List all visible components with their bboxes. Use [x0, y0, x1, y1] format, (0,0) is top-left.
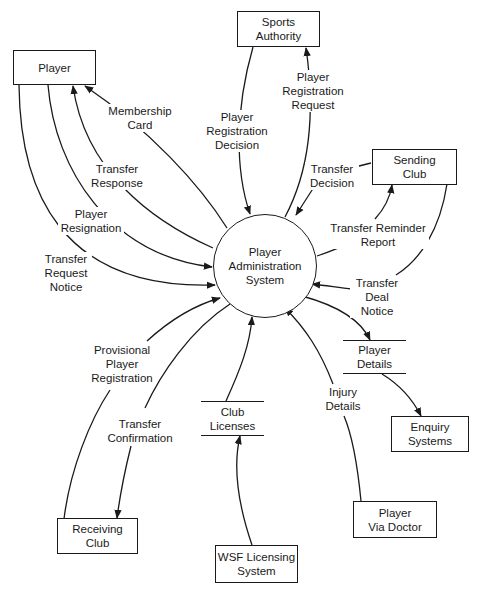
flow-to-enquiry-systems: [382, 374, 421, 416]
entity-enquiry-systems[interactable]: Enquiry Systems: [391, 416, 469, 452]
store-label: Player Details: [357, 343, 392, 371]
entity-label: Player Via Doctor: [368, 506, 421, 534]
entity-label: Sending Club: [393, 153, 435, 181]
entity-sports-authority[interactable]: Sports Authority: [237, 11, 320, 47]
entity-player[interactable]: Player: [13, 50, 96, 85]
process-player-administration-system[interactable]: Player Administration System: [213, 214, 317, 318]
label-transfer-decision: Transfer Decision: [305, 162, 359, 190]
label-membership-card: Membership Card: [104, 104, 176, 132]
store-label: Club Licenses: [210, 405, 255, 433]
entity-sending-club[interactable]: Sending Club: [372, 149, 457, 185]
flow-transfer-reminder-report-head: [375, 185, 392, 219]
entity-receiving-club[interactable]: Receiving Club: [57, 518, 138, 554]
flow-transfer-deal-notice-head: [312, 284, 352, 289]
label-transfer-request-notice: Transfer Request Notice: [40, 252, 92, 294]
entity-label: Sports Authority: [256, 15, 301, 43]
entity-label: Receiving Club: [72, 522, 123, 550]
flow-injury-details-upper: [285, 308, 333, 384]
flow-provisional-player-registration-lower: [64, 390, 110, 519]
process-label: Player Administration System: [229, 245, 302, 287]
label-player-registration-decision: Player Registration Decision: [204, 110, 270, 152]
label-provisional-player-registration: Provisional Player Registration: [88, 343, 156, 385]
label-transfer-deal-notice: Transfer Deal Notice: [350, 276, 404, 318]
entity-label: Enquiry Systems: [408, 420, 452, 448]
entity-label: WSF Licensing System: [218, 550, 295, 578]
label-player-resignation: Player Resignation: [58, 207, 124, 235]
entity-label: Player: [38, 61, 71, 75]
label-player-registration-request: Player Registration Request: [280, 70, 346, 112]
label-transfer-reminder-report: Transfer Reminder Report: [327, 221, 429, 249]
entity-player-via-doctor[interactable]: Player Via Doctor: [353, 501, 437, 538]
flow-transfer-decision-tail: [296, 187, 314, 215]
flow-transfer-confirmation-upper: [145, 304, 230, 408]
store-player-details[interactable]: Player Details: [343, 340, 406, 374]
flow-wsf-to-club-licenses: [237, 436, 252, 545]
store-club-licenses[interactable]: Club Licenses: [201, 401, 264, 436]
label-transfer-confirmation: Transfer Confirmation: [104, 417, 176, 445]
entity-wsf-licensing-system[interactable]: WSF Licensing System: [215, 545, 298, 583]
label-injury-details: Injury Details: [322, 385, 364, 413]
flow-transfer-confirmation-lower: [117, 446, 131, 518]
flow-injury-details-lower: [344, 416, 361, 501]
flow-club-licenses-to-process: [226, 317, 252, 401]
label-transfer-response: Transfer Response: [86, 162, 148, 190]
